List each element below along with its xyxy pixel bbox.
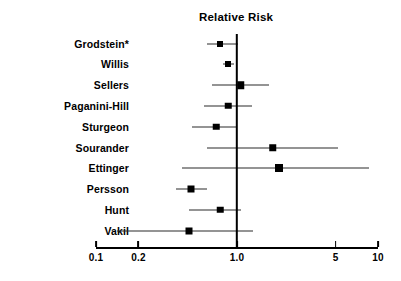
point-estimate-marker (225, 103, 232, 110)
x-axis-tick (95, 241, 97, 247)
study-label: Grodstein* (74, 38, 129, 50)
x-axis-tick (236, 241, 238, 247)
x-axis-tick-label: 1.0 (230, 252, 245, 264)
point-estimate-marker (213, 123, 220, 130)
point-estimate-marker (217, 41, 223, 47)
x-axis-tick-label: 10 (372, 252, 384, 264)
study-label: Persson (87, 183, 129, 195)
point-estimate-marker (269, 144, 277, 152)
study-label: Sturgeon (82, 121, 129, 133)
confidence-interval-line (117, 230, 253, 231)
x-axis-line (96, 247, 378, 250)
x-axis-tick (335, 241, 337, 247)
point-estimate-marker (275, 164, 283, 172)
point-estimate-marker (186, 227, 193, 234)
study-label: Sellers (94, 79, 129, 91)
point-estimate-marker (187, 186, 194, 193)
x-axis-tick (138, 241, 140, 247)
confidence-interval-line (189, 209, 240, 210)
study-label: Sourander (76, 142, 129, 154)
plot-area: Grodstein*WillisSellersPaganini-HillStur… (0, 0, 401, 281)
point-estimate-marker (217, 207, 224, 214)
null-reference-line (236, 34, 238, 247)
x-axis-tick-label: 0.2 (131, 252, 146, 264)
x-axis-tick-label: 5 (333, 252, 339, 264)
study-label: Willis (101, 58, 129, 70)
x-axis-tick (377, 241, 379, 247)
study-label: Hunt (105, 204, 129, 216)
x-axis-tick-label: 0.1 (89, 252, 104, 264)
point-estimate-marker (225, 61, 231, 67)
study-label: Paganini-Hill (64, 100, 129, 112)
forest-plot-figure: Relative Risk Grodstein*WillisSellersPag… (0, 0, 401, 281)
study-label: Ettinger (89, 162, 129, 174)
